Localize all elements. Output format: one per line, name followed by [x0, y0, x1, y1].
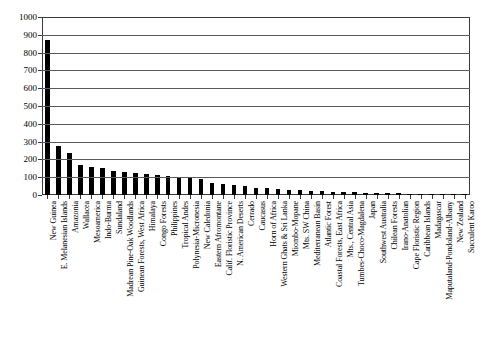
bar	[111, 171, 116, 195]
x-tick-mark	[311, 195, 312, 199]
y-tick-label: 800	[24, 48, 38, 57]
x-tick-mark	[421, 195, 422, 199]
x-tick-mark	[388, 195, 389, 199]
x-tick-mark	[234, 195, 235, 199]
gridline	[42, 177, 470, 178]
x-tick-mark	[344, 195, 345, 199]
x-tick-mark	[366, 195, 367, 199]
bar	[78, 165, 83, 195]
x-tick-mark	[223, 195, 224, 199]
x-tick-mark	[124, 195, 125, 199]
x-tick-label: Himalaya	[149, 201, 157, 231]
x-axis: New GuineaE. Melanesian IslandsAmazoniaW…	[42, 195, 470, 337]
x-tick-mark	[80, 195, 81, 199]
x-tick-mark	[69, 195, 70, 199]
bar	[232, 185, 237, 195]
y-tick-label: 600	[24, 84, 38, 93]
x-tick-mark	[47, 195, 48, 199]
x-tick-mark	[113, 195, 114, 199]
x-tick-mark	[245, 195, 246, 199]
x-tick-label: Mts. SW China	[303, 201, 311, 249]
x-tick-mark	[168, 195, 169, 199]
x-tick-label: Philippines	[171, 201, 179, 236]
x-tick-mark	[410, 195, 411, 199]
x-tick-label: Mesoamerica	[94, 201, 102, 243]
y-tick-label: 200	[24, 155, 38, 164]
y-tick-label: 400	[24, 119, 38, 128]
bar	[122, 172, 127, 195]
x-tick-label: Cape Floristic Region	[413, 201, 421, 269]
x-tick-label: Coastal Forests, East Africa	[336, 201, 344, 287]
bar	[210, 183, 215, 195]
x-tick-mark	[157, 195, 158, 199]
y-axis: 10009008007006005004003002001000	[0, 0, 42, 212]
x-tick-mark	[179, 195, 180, 199]
bar	[221, 184, 226, 195]
x-tick-mark	[267, 195, 268, 199]
x-tick-label: Atlantic Forest	[325, 201, 333, 247]
x-tick-mark	[146, 195, 147, 199]
x-tick-label: New Zealand	[457, 201, 465, 243]
x-tick-label: Madagascar	[435, 201, 443, 239]
y-tick-label: 1000	[19, 13, 37, 22]
bar	[188, 178, 193, 195]
x-tick-mark	[102, 195, 103, 199]
x-tick-label: Miombo-Mopane	[292, 201, 300, 256]
bar	[166, 176, 171, 195]
x-tick-label: Mts., Central Asia	[347, 201, 355, 257]
gridline	[42, 70, 470, 71]
x-tick-mark	[256, 195, 257, 199]
bar	[199, 179, 204, 195]
x-tick-mark	[432, 195, 433, 199]
x-tick-mark	[322, 195, 323, 199]
bar-chart: 10009008007006005004003002001000 New Gui…	[0, 0, 490, 337]
x-tick-mark	[377, 195, 378, 199]
bar	[243, 186, 248, 195]
x-tick-mark	[278, 195, 279, 199]
x-tick-label: Southwest Australia	[380, 201, 388, 263]
x-tick-label: Japan	[369, 201, 377, 219]
bar	[155, 175, 160, 195]
x-tick-mark	[454, 195, 455, 199]
x-tick-mark	[201, 195, 202, 199]
y-tick-label: 500	[24, 102, 38, 111]
x-tick-label: Congo Forests	[160, 201, 168, 246]
x-tick-mark	[300, 195, 301, 199]
x-tick-label: Calif. Floristic Province	[226, 201, 234, 276]
x-tick-label: Horn of Africa	[270, 201, 278, 247]
x-tick-label: New Guinea	[50, 201, 58, 240]
x-tick-mark	[399, 195, 400, 199]
plot-area	[42, 17, 470, 195]
x-tick-mark	[58, 195, 59, 199]
gridline	[42, 53, 470, 54]
gridline	[42, 106, 470, 107]
x-tick-label: Sundaland	[116, 201, 124, 234]
x-tick-label: Wallacea	[83, 201, 91, 229]
gridline	[42, 124, 470, 125]
x-tick-label: Polynesia-Micronesia	[193, 201, 201, 269]
bar	[265, 188, 270, 195]
bar	[45, 40, 50, 195]
y-tick-label: 900	[24, 30, 38, 39]
y-tick-label: 100	[24, 173, 38, 182]
gridline	[42, 88, 470, 89]
x-tick-label: Indo-Burma	[105, 201, 113, 239]
x-tick-label: Chilean Forests	[391, 201, 399, 250]
x-tick-mark	[465, 195, 466, 199]
x-tick-label: Eastern Afromontane	[215, 201, 223, 267]
gridline	[42, 35, 470, 36]
y-tick-label: 700	[24, 66, 38, 75]
x-tick-label: Amazonia	[72, 201, 80, 233]
bar	[177, 177, 182, 195]
x-tick-label: Cerrado	[248, 201, 256, 226]
bar	[100, 168, 105, 195]
x-tick-mark	[190, 195, 191, 199]
x-tick-label: E. Melanesian Islands	[61, 201, 69, 269]
x-tick-mark	[443, 195, 444, 199]
x-tick-label: Succulent Karoo	[468, 201, 476, 253]
x-tick-label: Maputaland-Pondoland-Albany	[446, 201, 454, 300]
x-tick-mark	[212, 195, 213, 199]
x-tick-mark	[355, 195, 356, 199]
x-tick-label: Tumbes-Choco-Magdalena	[358, 201, 366, 286]
x-tick-label: Guinean Forests, West Africa	[138, 201, 146, 292]
